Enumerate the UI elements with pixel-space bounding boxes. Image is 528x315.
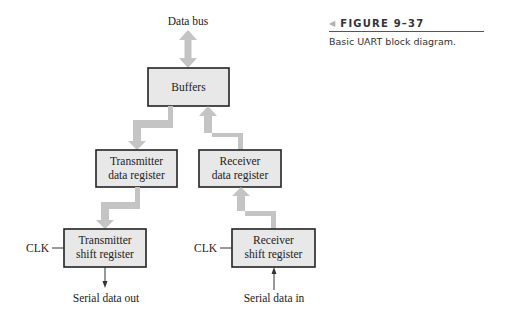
rx-data-register-label-line2: data register — [212, 169, 269, 182]
figure-rule-divider — [329, 31, 484, 32]
uart-block-diagram: Data bus Buffers Transmitter data regist… — [0, 0, 528, 315]
rx-shift-register-label-line2: shift register — [245, 248, 303, 261]
figure-caption-block: ◀ FIGURE 9–37 Basic UART block diagram. — [329, 18, 489, 47]
tx-shift-register-label-line1: Transmitter — [78, 234, 131, 246]
tx-data-register-label-line1: Transmitter — [110, 155, 163, 167]
serial-in-arrow-icon — [272, 267, 277, 290]
serial-data-in-label: Serial data in — [244, 292, 305, 304]
rx-data-register-block: Receiver data register — [199, 150, 281, 187]
tx-shift-register-label-line2: shift register — [76, 248, 134, 261]
rx-data-register-label-line1: Receiver — [220, 155, 261, 167]
tx-shift-register-block: Transmitter shift register — [64, 229, 146, 267]
bus-arrow-to-tx-shift-register-icon — [96, 187, 140, 229]
buffers-block: Buffers — [148, 68, 229, 106]
buffers-label: Buffers — [171, 81, 206, 93]
figure-number-text: FIGURE 9–37 — [340, 18, 424, 29]
figure-number: ◀ FIGURE 9–37 — [329, 18, 489, 29]
triangle-marker-icon: ◀ — [329, 19, 336, 28]
bus-arrow-to-buffers-icon — [199, 106, 243, 150]
tx-clk-label: CLK — [26, 242, 50, 254]
rx-shift-register-block: Receiver shift register — [232, 229, 315, 267]
serial-data-out-label: Serial data out — [73, 292, 140, 304]
tx-data-register-label-line2: data register — [108, 169, 165, 182]
bus-arrow-to-tx-data-register-icon — [128, 106, 173, 150]
bus-arrow-to-rx-data-register-icon — [232, 187, 276, 229]
data-bus-arrow-icon — [179, 30, 197, 68]
rx-shift-register-label-line1: Receiver — [253, 234, 294, 246]
data-bus-label: Data bus — [168, 15, 209, 27]
tx-data-register-block: Transmitter data register — [96, 150, 177, 187]
serial-out-arrow-icon — [103, 267, 108, 288]
rx-clk-label: CLK — [194, 242, 218, 254]
figure-caption: Basic UART block diagram. — [329, 36, 489, 47]
